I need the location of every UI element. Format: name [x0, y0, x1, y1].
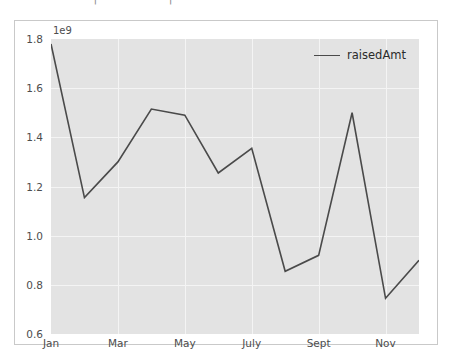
- chart-figure: 1e9 0.60.81.01.21.41.61.8 JanMarMayJulyS…: [14, 20, 438, 345]
- x-axis-tick-label: Nov: [375, 337, 396, 349]
- series-line-raisedAmt: [51, 44, 419, 298]
- chart-legend: raisedAmt: [310, 45, 413, 65]
- x-axis-tick-label: Jan: [43, 337, 59, 349]
- legend-label-raisedAmt: raisedAmt: [347, 48, 406, 62]
- legend-line-swatch: [314, 55, 340, 56]
- x-axis-tick-label: Mar: [108, 337, 128, 349]
- y-axis-tick-label: 0.8: [3, 279, 43, 291]
- y-axis-tick-label: 1.0: [3, 230, 43, 242]
- clipped-text-fragment: – –– –– –– | –– – –– | –– –: [8, 0, 214, 5]
- clipped-text-strip: – –– –– –– | –– – –– | –– –: [0, 0, 453, 13]
- x-axis-tick-label: May: [174, 337, 196, 349]
- y-axis-tick-label: 1.2: [3, 181, 43, 193]
- y-axis-tick-label: 0.6: [3, 328, 43, 340]
- y-axis-tick-label: 1.8: [3, 33, 43, 45]
- y-axis-tick-label: 1.6: [3, 82, 43, 94]
- y-axis-tick-label: 1.4: [3, 131, 43, 143]
- x-axis-tick-label: Sept: [307, 337, 331, 349]
- series-svg: [51, 39, 419, 334]
- y-axis-exponent-label: 1e9: [53, 25, 72, 36]
- plot-area: raisedAmt: [51, 39, 419, 334]
- x-axis-tick-label: July: [242, 337, 261, 349]
